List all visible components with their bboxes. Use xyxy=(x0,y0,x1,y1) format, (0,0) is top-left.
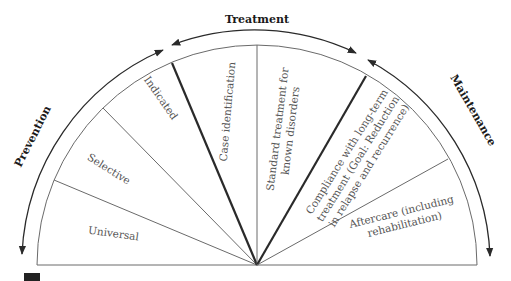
segment-label-indicated: Indicated xyxy=(142,74,181,122)
phase-label-treatment: Treatment xyxy=(225,13,290,26)
phase-label-maintenance: Maintenance xyxy=(447,72,498,148)
corner-marker xyxy=(24,273,40,281)
segment-label-case-identification: Case identification xyxy=(217,61,238,162)
compliance-line-2: treatment (Goal: Reduction xyxy=(314,93,402,223)
divider-selective-indicated xyxy=(103,108,257,265)
spectrum-diagram: Treatment Prevention Maintenance Univers… xyxy=(0,0,511,281)
segment-label-aftercare: Aftercare (including rehabilitation) xyxy=(347,192,458,243)
segment-label-standard-treatment: Standard treatment for known disorders xyxy=(264,66,304,193)
segment-label-universal: Universal xyxy=(87,224,140,243)
phase-label-prevention: Prevention xyxy=(12,104,54,170)
segment-label-selective: Selective xyxy=(85,151,133,187)
treatment-arrow xyxy=(172,30,356,53)
